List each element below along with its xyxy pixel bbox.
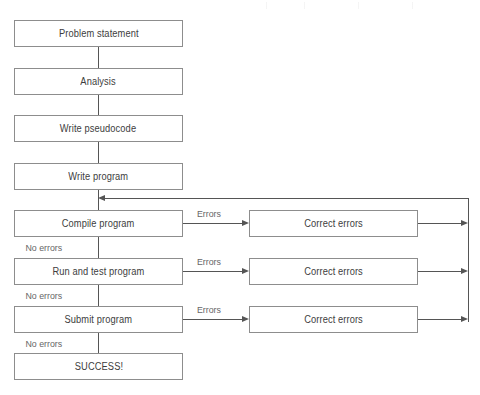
node-write-pseudocode[interactable]: Write pseudocode [14, 115, 183, 142]
node-analysis[interactable]: Analysis [14, 68, 183, 95]
arrowhead-run-test-to-correct-errors [242, 268, 249, 274]
node-write-program[interactable]: Write program [14, 163, 183, 190]
edge-label-errors-compile: Errors [196, 209, 222, 219]
scan-artifact-strip [262, 2, 474, 9]
node-correct-errors-submit-label: Correct errors [304, 315, 363, 325]
arrowhead-compile-to-correct-errors [242, 220, 249, 226]
node-compile-program[interactable]: Compile program [14, 210, 183, 237]
node-compile-program-label: Compile program [62, 219, 135, 229]
node-correct-errors-test-label: Correct errors [304, 267, 363, 277]
edge-run-test-to-correct-errors [183, 271, 242, 272]
connector-compile-to-run-test [98, 237, 99, 258]
edge-correct-errors-submit-to-trunk [418, 319, 461, 320]
connector-run-test-to-submit [98, 285, 99, 306]
return-trunk-vertical [468, 198, 469, 322]
arrowhead-correct-errors-test-to-trunk [461, 268, 468, 274]
node-submit-program-label: Submit program [65, 315, 132, 325]
connector-problem-to-analysis [98, 47, 99, 68]
arrowhead-return-to-write-program [98, 195, 105, 201]
node-problem-statement-label: Problem statement [59, 29, 139, 39]
node-correct-errors-test[interactable]: Correct errors [249, 258, 418, 285]
node-correct-errors-submit[interactable]: Correct errors [249, 306, 418, 333]
edge-label-errors-test: Errors [196, 257, 222, 267]
edge-label-no-errors-compile: No errors [24, 243, 64, 253]
node-success[interactable]: SUCCESS! [14, 353, 183, 380]
edge-label-no-errors-test: No errors [24, 291, 64, 301]
edge-submit-to-correct-errors [183, 319, 242, 320]
connector-pseudocode-to-write-program [98, 142, 99, 163]
return-trunk-horizontal [105, 198, 469, 199]
node-correct-errors-compile-label: Correct errors [304, 219, 363, 229]
node-success-label: SUCCESS! [74, 362, 122, 372]
node-correct-errors-compile[interactable]: Correct errors [249, 210, 418, 237]
edge-correct-errors-test-to-trunk [418, 271, 461, 272]
arrowhead-correct-errors-compile-to-trunk [461, 220, 468, 226]
connector-submit-to-success [98, 333, 99, 353]
edge-label-errors-submit: Errors [196, 305, 222, 315]
node-write-pseudocode-label: Write pseudocode [60, 124, 136, 134]
edge-label-no-errors-submit: No errors [24, 339, 64, 349]
node-write-program-label: Write program [69, 172, 129, 182]
node-run-and-test-program-label: Run and test program [53, 267, 145, 277]
arrowhead-correct-errors-submit-to-trunk [461, 316, 468, 322]
node-run-and-test-program[interactable]: Run and test program [14, 258, 183, 285]
node-submit-program[interactable]: Submit program [14, 306, 183, 333]
node-analysis-label: Analysis [81, 77, 116, 87]
arrowhead-submit-to-correct-errors [242, 316, 249, 322]
connector-analysis-to-pseudocode [98, 95, 99, 115]
edge-correct-errors-compile-to-trunk [418, 223, 461, 224]
flowchart-canvas: Problem statement Analysis Write pseudoc… [0, 0, 480, 395]
node-problem-statement[interactable]: Problem statement [14, 20, 183, 47]
edge-compile-to-correct-errors [183, 223, 242, 224]
